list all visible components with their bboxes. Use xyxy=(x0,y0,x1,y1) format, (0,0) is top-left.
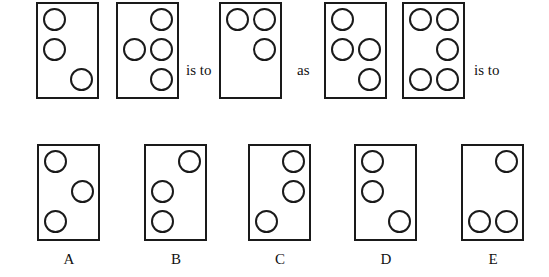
premise-figure-1 xyxy=(36,2,99,99)
circle-icon xyxy=(358,68,381,91)
option-label-b[interactable]: B xyxy=(166,251,186,267)
option-figure-c[interactable] xyxy=(248,144,311,241)
option-figure-d[interactable] xyxy=(354,144,417,241)
circle-icon xyxy=(178,150,201,173)
premise-figure-2 xyxy=(116,2,179,99)
option-label-e[interactable]: E xyxy=(483,251,503,267)
option-label-a[interactable]: A xyxy=(59,251,79,267)
option-figure-e[interactable] xyxy=(461,144,524,241)
connector-as: as xyxy=(297,62,310,78)
connector-is-to-1: is to xyxy=(186,62,211,78)
circle-icon xyxy=(282,150,305,173)
option-label-d[interactable]: D xyxy=(376,251,396,267)
circle-icon xyxy=(123,38,146,61)
circle-icon xyxy=(70,68,93,91)
premise-figure-4 xyxy=(324,2,387,99)
circle-icon xyxy=(358,38,381,61)
connector-is-to-2: is to xyxy=(474,62,499,78)
circle-icon xyxy=(253,38,276,61)
circle-icon xyxy=(253,8,276,31)
circle-icon xyxy=(436,8,459,31)
circle-icon xyxy=(361,150,384,173)
circle-icon xyxy=(495,210,518,233)
circle-icon xyxy=(388,210,411,233)
circle-icon xyxy=(409,68,432,91)
circle-icon xyxy=(150,38,173,61)
circle-icon xyxy=(468,210,491,233)
circle-icon xyxy=(495,150,518,173)
circle-icon xyxy=(436,68,459,91)
option-figure-b[interactable] xyxy=(144,144,207,241)
circle-icon xyxy=(409,8,432,31)
circle-icon xyxy=(282,180,305,203)
circle-icon xyxy=(151,210,174,233)
option-figure-a[interactable] xyxy=(37,144,100,241)
circle-icon xyxy=(226,8,249,31)
premise-figure-5 xyxy=(402,2,465,99)
circle-icon xyxy=(151,180,174,203)
circle-icon xyxy=(43,38,66,61)
circle-icon xyxy=(255,210,278,233)
circle-icon xyxy=(361,180,384,203)
circle-icon xyxy=(150,8,173,31)
circle-icon xyxy=(44,150,67,173)
premise-figure-3 xyxy=(219,2,282,99)
option-label-c[interactable]: C xyxy=(270,251,290,267)
circle-icon xyxy=(331,38,354,61)
circle-icon xyxy=(71,180,94,203)
circle-icon xyxy=(44,210,67,233)
circle-icon xyxy=(43,8,66,31)
circle-icon xyxy=(436,38,459,61)
circle-icon xyxy=(331,8,354,31)
circle-icon xyxy=(150,68,173,91)
